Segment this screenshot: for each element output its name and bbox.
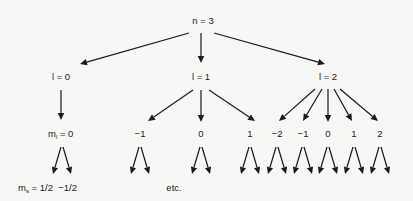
arrow-ml1-to-ms-down bbox=[141, 147, 150, 174]
arrow-ml6-to-ms-up bbox=[318, 147, 327, 174]
arrow-l2-to-ml-minus2 bbox=[279, 89, 315, 121]
arrow-ml8-to-ms-up bbox=[370, 147, 379, 174]
arrow-l0-to-ml bbox=[58, 90, 64, 120]
ms-symbol: m bbox=[18, 182, 26, 193]
arrow-l2-to-ml-1 bbox=[334, 89, 352, 121]
node-l0: l = 0 bbox=[52, 71, 70, 82]
arrow-n-to-l1 bbox=[198, 33, 204, 63]
arrow-ml6-to-ms-down bbox=[329, 147, 338, 174]
arrow-ml0-to-ms-down bbox=[63, 147, 72, 174]
arrow-ml4-to-ms-down bbox=[278, 147, 287, 174]
arrow-ml5-to-ms-up bbox=[293, 147, 302, 174]
node-ml-l2-1: 1 bbox=[351, 128, 356, 139]
arrow-l1-to-ml-minus1 bbox=[148, 90, 193, 121]
arrow-ml2-to-ms-up bbox=[191, 147, 200, 174]
arrow-ml8-to-ms-down bbox=[381, 147, 390, 174]
node-n: n = 3 bbox=[192, 15, 213, 26]
node-ml-l2-minus1: −1 bbox=[298, 128, 309, 139]
node-ml-l2-minus2: −2 bbox=[272, 128, 283, 139]
ms-values: = 1/2 −1/2 bbox=[29, 182, 77, 193]
arrow-ml0-to-ms-up bbox=[52, 147, 61, 174]
arrow-ml1-to-ms-up bbox=[130, 147, 139, 174]
node-ml-l1-1: 1 bbox=[247, 128, 252, 139]
node-ml-l1-minus1: −1 bbox=[135, 128, 146, 139]
node-l2: l = 2 bbox=[319, 71, 337, 82]
quantum-number-tree: n = 3 l = 0 l = 1 l = 2 ml = 0 −1 0 1 −2… bbox=[0, 0, 413, 201]
arrow-ml3-to-ms-down bbox=[251, 147, 260, 174]
node-ml-l0: ml = 0 bbox=[48, 128, 73, 140]
arrow-l2-to-ml-2 bbox=[340, 89, 378, 121]
arrow-n-to-l0 bbox=[80, 33, 189, 65]
ms-label: ms = 1/2 −1/2 bbox=[18, 182, 77, 194]
arrow-ml2-to-ms-down bbox=[202, 147, 211, 174]
node-ml-l1-0: 0 bbox=[198, 128, 203, 139]
arrow-ml3-to-ms-up bbox=[240, 147, 249, 174]
arrow-n-to-l2 bbox=[214, 33, 325, 65]
ml-value: = 0 bbox=[57, 128, 73, 139]
arrow-ml5-to-ms-down bbox=[304, 147, 313, 174]
arrow-l2-to-ml-minus1 bbox=[303, 89, 322, 121]
arrow-ml7-to-ms-up bbox=[344, 147, 353, 174]
node-l1: l = 1 bbox=[192, 71, 210, 82]
etc-label: etc. bbox=[166, 182, 181, 193]
ml-symbol: m bbox=[48, 128, 56, 139]
node-ml-l2-0: 0 bbox=[325, 128, 330, 139]
arrow-l1-to-ml-0 bbox=[198, 90, 204, 122]
node-ml-l2-2: 2 bbox=[377, 128, 382, 139]
arrow-ml7-to-ms-down bbox=[355, 147, 364, 174]
arrow-l2-to-ml-0 bbox=[325, 89, 331, 122]
edges bbox=[52, 33, 390, 174]
arrow-l1-to-ml-1 bbox=[209, 90, 255, 121]
arrow-ml4-to-ms-up bbox=[267, 147, 276, 174]
